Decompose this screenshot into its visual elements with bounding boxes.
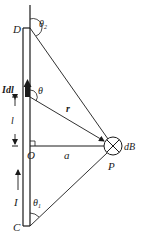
geometry-lines (30, 28, 108, 226)
label-theta2: θ2 (39, 18, 47, 30)
field-into-page-icon (104, 137, 122, 155)
label-I: I (13, 196, 19, 208)
label-O: O (27, 149, 35, 161)
right-angle-mark (30, 141, 35, 146)
label-l: l (11, 115, 14, 126)
label-theta: θ (38, 85, 43, 96)
biot-savart-diagram: D θ2 Idl θ l r O a dB P I θ1 C (0, 0, 142, 234)
label-P: P (107, 160, 115, 172)
label-r: r (66, 103, 70, 114)
label-D: D (12, 23, 21, 35)
wire (23, 5, 30, 226)
label-a: a (64, 149, 70, 161)
label-C: C (13, 221, 21, 233)
label-Idl: Idl (1, 84, 14, 95)
label-dB: dB (124, 141, 135, 152)
angle-arc-theta1 (30, 213, 39, 217)
label-theta1: θ1 (33, 197, 41, 209)
